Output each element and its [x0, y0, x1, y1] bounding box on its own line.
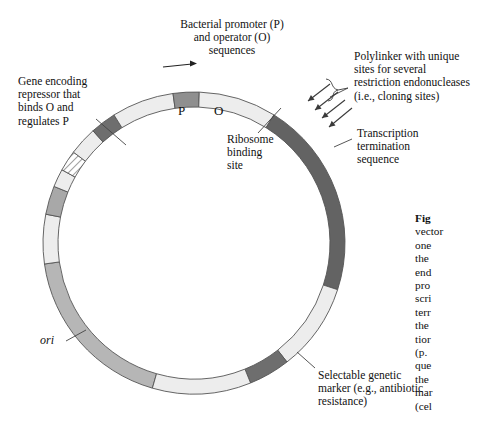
arrow-shaft: [163, 64, 192, 67]
ring-segment-spacer-marker-ori: [278, 285, 338, 362]
transcription-direction-arrow: [163, 61, 197, 67]
figure-canvas: Bacterial promoter (P) and operator (O) …: [0, 0, 479, 424]
label-ribosome-binding-site: Ribosome binding site: [227, 133, 305, 173]
ring-segment-spacer-upper-left: [43, 214, 60, 264]
polylinker-cloning-site-arrows: [308, 79, 352, 127]
label-operator-letter: O: [214, 103, 223, 119]
figure-caption-body: vector one the end pro scri terr the tio…: [415, 225, 479, 413]
label-bacterial-promoter-operator: Bacterial promoter (P) and operator (O) …: [148, 18, 316, 58]
ring-segment-spacer-term-marker: [199, 92, 274, 128]
figure-caption: Fig vector one the end pro scri terr the…: [415, 212, 479, 417]
ring-segment-origin-of-replication: [245, 350, 287, 383]
label-polylinker: Polylinker with unique sites for several…: [354, 50, 479, 103]
polylinker-arrow-head: [322, 112, 329, 118]
label-promoter-letter: P: [178, 103, 185, 119]
ring-segment-spacer-ori-repressor: [152, 369, 250, 394]
ring-segment-repressor-gene: [44, 262, 156, 388]
label-origin-of-replication: ori: [40, 333, 54, 348]
figure-caption-label: Fig: [415, 212, 431, 224]
polylinker-arrow-head: [308, 95, 315, 101]
ring-segment-transcription-termination: [173, 92, 199, 108]
polylinker-arrow-head: [315, 104, 322, 110]
leader-marker: [297, 352, 315, 368]
arrow-head: [190, 61, 197, 67]
label-repressor-gene: Gene encoding repressor that binds O and…: [18, 75, 136, 128]
leader-termination: [334, 139, 352, 147]
label-transcription-termination: Transcription termination sequence: [357, 127, 469, 167]
